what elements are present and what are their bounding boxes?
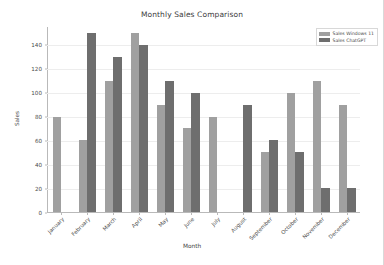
bar-group: May bbox=[152, 27, 178, 212]
bar-group: June bbox=[178, 27, 204, 212]
bar-series-1[interactable] bbox=[183, 128, 192, 212]
bar-group: July bbox=[204, 27, 230, 212]
bar-series-2[interactable] bbox=[165, 81, 174, 212]
bar-series-1[interactable] bbox=[287, 93, 296, 212]
bar-groups: JanuaryFebruaryMarchAprilMayJuneJulyAugu… bbox=[48, 27, 360, 212]
bar-series-1[interactable] bbox=[313, 81, 322, 212]
x-tick-label: May bbox=[157, 216, 169, 228]
x-tick-label: November bbox=[301, 216, 325, 240]
x-tick-mark bbox=[269, 212, 270, 215]
x-tick-mark bbox=[165, 212, 166, 215]
bar-series-1[interactable] bbox=[53, 117, 62, 212]
bar-series-1[interactable] bbox=[339, 105, 348, 212]
bar-group: December bbox=[334, 27, 360, 212]
bar-group: March bbox=[100, 27, 126, 212]
y-tick-label: 100 bbox=[31, 90, 42, 96]
x-tick-label: December bbox=[327, 216, 351, 240]
y-tick-label: 140 bbox=[31, 42, 42, 48]
plot-area: 020406080100120140 JanuaryFebruaryMarchA… bbox=[47, 27, 360, 213]
bar-series-2[interactable] bbox=[321, 188, 330, 212]
x-tick-mark bbox=[243, 212, 244, 215]
y-tick-mark bbox=[45, 188, 48, 189]
bar-series-2[interactable] bbox=[269, 140, 278, 212]
x-tick-label: August bbox=[230, 216, 248, 234]
chart-title: Monthly Sales Comparison bbox=[0, 10, 384, 19]
x-tick-label: March bbox=[101, 216, 117, 232]
bar-series-2[interactable] bbox=[243, 105, 252, 212]
x-tick-label: June bbox=[183, 216, 196, 229]
y-tick-label: 0 bbox=[38, 210, 42, 216]
bar-series-1[interactable] bbox=[209, 117, 218, 212]
y-tick-label: 80 bbox=[35, 114, 42, 120]
y-tick-label: 40 bbox=[35, 162, 42, 168]
x-axis-label: Month bbox=[0, 243, 384, 249]
bar-series-2[interactable] bbox=[139, 45, 148, 212]
legend-swatch-series-2 bbox=[319, 38, 330, 42]
x-tick-label: July bbox=[210, 216, 221, 227]
bar-series-2[interactable] bbox=[87, 33, 96, 212]
legend-item[interactable]: Sales ChatGPT bbox=[319, 38, 375, 43]
x-tick-mark bbox=[321, 212, 322, 215]
x-tick-mark bbox=[295, 212, 296, 215]
y-tick-label: 20 bbox=[35, 186, 42, 192]
chart-figure: Monthly Sales Comparison Sales 020406080… bbox=[0, 0, 384, 265]
x-tick-label: April bbox=[130, 216, 143, 229]
bar-group: February bbox=[74, 27, 100, 212]
bar-group: October bbox=[282, 27, 308, 212]
bar-group: November bbox=[308, 27, 334, 212]
x-axis-line bbox=[47, 212, 360, 213]
y-axis-label: Sales bbox=[14, 111, 20, 126]
bar-group: January bbox=[48, 27, 74, 212]
y-tick-label: 60 bbox=[35, 138, 42, 144]
bar-group: August bbox=[230, 27, 256, 212]
y-tick-mark bbox=[45, 213, 48, 214]
x-tick-mark bbox=[347, 212, 348, 215]
y-tick-label: 120 bbox=[31, 66, 42, 72]
bar-series-1[interactable] bbox=[105, 81, 114, 212]
bar-series-1[interactable] bbox=[157, 105, 166, 212]
x-tick-label: October bbox=[280, 216, 300, 236]
x-tick-mark bbox=[191, 212, 192, 215]
bar-series-1[interactable] bbox=[79, 140, 88, 212]
legend-label-series-2: Sales ChatGPT bbox=[333, 38, 367, 43]
x-tick-label: February bbox=[70, 216, 91, 237]
bar-series-2[interactable] bbox=[191, 93, 200, 212]
bar-series-2[interactable] bbox=[347, 188, 356, 212]
x-tick-label: January bbox=[47, 216, 66, 235]
x-tick-label: September bbox=[248, 216, 273, 241]
legend-swatch-series-1 bbox=[319, 32, 330, 36]
bar-group: September bbox=[256, 27, 282, 212]
bar-series-1[interactable] bbox=[261, 152, 270, 212]
legend-item[interactable]: Sales Windows 11 bbox=[319, 31, 375, 36]
y-tick-mark bbox=[45, 93, 48, 94]
bar-group: April bbox=[126, 27, 152, 212]
x-tick-mark bbox=[139, 212, 140, 215]
x-tick-mark bbox=[61, 212, 62, 215]
bar-series-1[interactable] bbox=[131, 33, 140, 212]
bar-series-2[interactable] bbox=[295, 152, 304, 212]
x-tick-mark bbox=[217, 212, 218, 215]
y-tick-mark bbox=[45, 141, 48, 142]
legend-label-series-1: Sales Windows 11 bbox=[333, 31, 375, 36]
x-tick-mark bbox=[87, 212, 88, 215]
y-tick-mark bbox=[45, 117, 48, 118]
y-tick-mark bbox=[45, 45, 48, 46]
x-tick-mark bbox=[113, 212, 114, 215]
chart-legend: Sales Windows 11 Sales ChatGPT bbox=[316, 28, 379, 46]
bar-series-2[interactable] bbox=[113, 57, 122, 212]
y-tick-mark bbox=[45, 69, 48, 70]
y-tick-mark bbox=[45, 165, 48, 166]
